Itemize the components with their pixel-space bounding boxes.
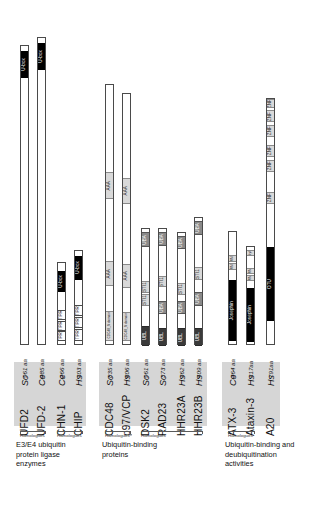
domain-U-box: U-box bbox=[21, 51, 28, 78]
caption-line: enzymes bbox=[16, 459, 112, 469]
domain-label: ZNF bbox=[268, 146, 273, 155]
domain-UBL: UBL bbox=[178, 328, 185, 346]
name-box-ub-binding bbox=[99, 362, 207, 426]
protein-bar-RAD23: UBLUBASTI1UBA bbox=[158, 228, 167, 345]
domain-AAA: AAA bbox=[106, 261, 113, 286]
species-label-Hs: Hs bbox=[74, 366, 84, 386]
caption-line: E3/E4 ubiquitin bbox=[16, 440, 112, 450]
domain-STI1: STI1 bbox=[142, 281, 149, 293]
domain-label: AAA bbox=[107, 181, 112, 191]
protein-name-UFD-2: UFD-2 bbox=[36, 390, 47, 436]
caption-line: deubiquitination bbox=[225, 450, 307, 460]
domain-U-box: U-box bbox=[58, 271, 65, 291]
domain-TPR: TPR bbox=[58, 321, 65, 331]
protein-name-CHIP: CHIP bbox=[73, 390, 84, 436]
domain-CDC48-N-domain: CDC48_N domain bbox=[106, 311, 113, 341]
domain-AAA: AAA bbox=[123, 264, 130, 288]
protein-name-RAD23: RAD23 bbox=[157, 390, 168, 436]
domain-label: UBA bbox=[196, 294, 201, 304]
group-caption-dub: Ubiquitin-binding anddeubiquitinationact… bbox=[225, 440, 307, 469]
protein-bar-HHR23A: UBLUBASTI1UBA bbox=[177, 232, 186, 345]
domain-ZNF: ZNF bbox=[267, 110, 274, 122]
domain-ZNF: ZNF bbox=[267, 145, 274, 157]
domain-label: TPR bbox=[59, 332, 64, 342]
domain-UBL: UBL bbox=[195, 328, 202, 346]
domain-AAA: AAA bbox=[123, 178, 130, 203]
species-label-Sc: Sc bbox=[141, 366, 151, 386]
domain-label: AAA bbox=[124, 271, 129, 281]
domain-label: U-box bbox=[76, 261, 81, 274]
domain-label: polyQ bbox=[249, 250, 252, 256]
species-label-Hs: Hs bbox=[246, 366, 256, 386]
homologue-label: Homologues bbox=[141, 433, 166, 438]
species-label-Hs: Hs bbox=[122, 366, 132, 386]
domain-label: STI1 bbox=[196, 269, 201, 279]
domain-AAA: AAA bbox=[106, 172, 113, 198]
protein-name-DSK2: DSK2 bbox=[140, 390, 151, 436]
caption-line: proteins bbox=[102, 450, 234, 460]
homologue-label: Homologues bbox=[228, 433, 253, 438]
species-label-Sc: Sc bbox=[158, 366, 168, 386]
domain-TPR: TPR bbox=[75, 305, 82, 316]
domain-ZNF: ZNF bbox=[267, 160, 274, 172]
protein-bar-A20: OTUZNFZNFZNFZNFZNFZNF bbox=[266, 98, 275, 345]
protein-bar-Ataxin-3: JosephinUIMUIMpolyQ bbox=[246, 246, 255, 345]
domain-label: AAA bbox=[107, 269, 112, 279]
protein-bar-UFD2: U-box bbox=[20, 45, 29, 345]
domain-label: Josephin bbox=[230, 301, 235, 320]
domain-label: STI1 bbox=[143, 282, 148, 292]
protein-bar-CHN-1: TPRTPRTPRU-box bbox=[57, 262, 66, 345]
domain-label: ZNF bbox=[268, 161, 273, 170]
protein-domain-diagram: U-box961 aaScUFD2U-box985 aaCeUFD-2TPRTP… bbox=[0, 0, 326, 525]
domain-label: U-box bbox=[22, 58, 27, 71]
domain-label: TPR bbox=[76, 330, 81, 340]
domain-label: TPR bbox=[76, 306, 81, 316]
domain-Josephin: Josephin bbox=[229, 280, 236, 341]
domain-label: UIM bbox=[249, 268, 252, 274]
domain-label: UBA bbox=[143, 235, 148, 245]
domain-label: TPR bbox=[76, 318, 81, 328]
domain-UBA: UBA bbox=[159, 301, 166, 314]
domain-U-box: U-box bbox=[75, 256, 82, 280]
domain-label: UIM bbox=[249, 275, 252, 281]
domain-TPR: TPR bbox=[75, 317, 82, 328]
caption-line: Ubiquitin-binding bbox=[102, 440, 234, 450]
species-label-Sc: Sc bbox=[105, 366, 115, 386]
domain-label: OTU bbox=[268, 279, 273, 289]
protein-name-HHR23B: HHR23B bbox=[193, 390, 204, 436]
domain-ZNF: ZNF bbox=[267, 125, 274, 137]
domain-label: STI1 bbox=[160, 277, 165, 287]
protein-bar-CHIP: TPRTPRTPRU-box bbox=[74, 250, 83, 345]
group-caption-e3e4: E3/E4 ubiquitinprotein ligaseenzymes bbox=[16, 440, 112, 469]
species-label-Sc: Sc bbox=[20, 366, 30, 386]
species-label-Ce: Ce bbox=[37, 366, 47, 386]
species-label-Ce: Ce bbox=[228, 366, 238, 386]
domain-OTU: OTU bbox=[267, 247, 274, 321]
protein-bar-CDC48: CDC48_N domainAAAAAA bbox=[105, 84, 114, 345]
domain-UIM: UIM bbox=[229, 255, 236, 262]
protein-bar-p97-VCP: CDC48_N domainAAAAAA bbox=[122, 93, 131, 345]
domain-label: ZNF bbox=[268, 99, 273, 108]
protein-bar-UFD-2: U-box bbox=[37, 37, 46, 345]
protein-name-CDC48: CDC48 bbox=[104, 390, 115, 436]
domain-UIM: UIM bbox=[247, 275, 254, 281]
domain-STI1: STI1 bbox=[195, 267, 202, 280]
domain-label: CDC48_N domain bbox=[108, 312, 111, 339]
domain-label: UBA bbox=[196, 223, 201, 233]
domain-UIM: UIM bbox=[247, 268, 254, 274]
homologue-label: Homologues bbox=[20, 433, 45, 438]
domain-label: UBA bbox=[179, 303, 184, 313]
domain-label: Josephin bbox=[248, 305, 253, 324]
domain-ZNF: ZNF bbox=[267, 99, 274, 108]
domain-label: ZNF bbox=[268, 193, 273, 202]
domain-label: UBA bbox=[179, 238, 184, 248]
species-label-Hs: Hs bbox=[177, 366, 187, 386]
domain-TPR: TPR bbox=[75, 329, 82, 340]
domain-UBL: UBL bbox=[159, 328, 166, 346]
domain-label: UBA bbox=[160, 303, 165, 313]
domain-label: UBL bbox=[179, 333, 184, 342]
domain-CDC48-N-domain: CDC48_N domain bbox=[123, 312, 130, 341]
protein-bar-ATX-3: JosephinUIMUIM bbox=[228, 231, 237, 345]
domain-TPR: TPR bbox=[58, 331, 65, 341]
domain-polyQ: polyQ bbox=[247, 250, 254, 256]
